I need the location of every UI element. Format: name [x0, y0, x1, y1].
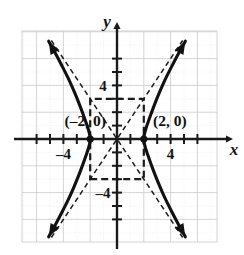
x-tick-label: –4 [55, 146, 72, 162]
left-vertex-label: (–2, 0) [65, 112, 106, 130]
vertex-point [87, 135, 94, 142]
y-tick-label: 4 [99, 78, 107, 94]
right-vertex-label: (2, 0) [153, 112, 187, 130]
vertex-point [140, 135, 147, 142]
hyperbola-plot: xy4–4–44(–2, 0)(2, 0) [0, 0, 244, 255]
y-axis-label: y [101, 12, 111, 31]
y-tick-label: –4 [95, 185, 112, 201]
x-tick-label: 4 [167, 146, 175, 162]
x-axis-label: x [229, 140, 239, 159]
hyperbola-figure: xy4–4–44(–2, 0)(2, 0) [0, 0, 244, 255]
